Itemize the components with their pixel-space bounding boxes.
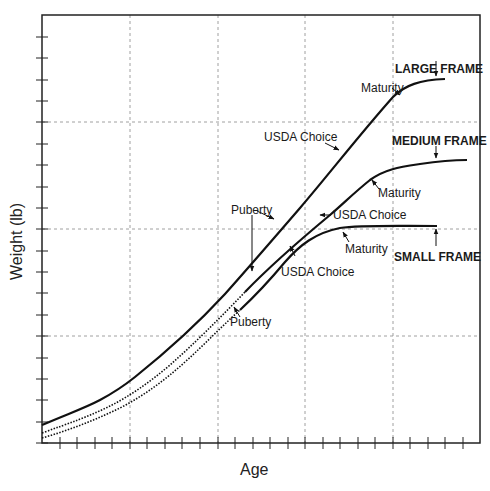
x-axis-title: Age: [240, 461, 269, 478]
growth-curve-chart: LARGE FRAME Maturity USDA Choice MEDIUM …: [0, 0, 490, 491]
y-axis-title: Weight (lb): [8, 203, 25, 280]
label-maturity-medium: Maturity: [378, 186, 421, 200]
label-maturity-large: Maturity: [361, 81, 404, 95]
label-small-frame: SMALL FRAME: [394, 250, 481, 264]
label-puberty-lower: Puberty: [230, 315, 271, 329]
label-usda-choice-small: USDA Choice: [281, 265, 355, 279]
label-maturity-small: Maturity: [345, 242, 388, 256]
label-usda-choice-large: USDA Choice: [264, 130, 338, 144]
label-large-frame: LARGE FRAME: [395, 62, 483, 76]
curve-small-frame-prepuberty: [42, 310, 240, 438]
label-puberty-upper: Puberty: [231, 203, 272, 217]
gridlines: [42, 15, 480, 443]
label-usda-choice-medium: USDA Choice: [333, 208, 407, 222]
label-medium-frame: MEDIUM FRAME: [392, 134, 487, 148]
